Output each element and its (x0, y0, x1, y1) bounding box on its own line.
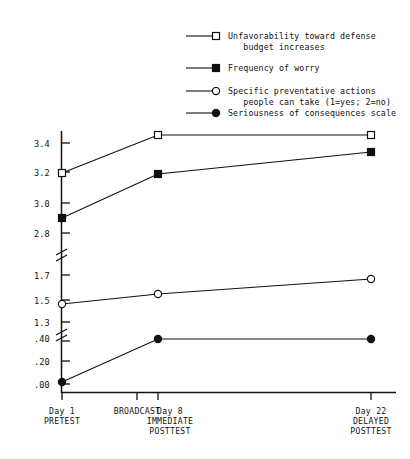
x-tick-label-line-1: BROADCAST (114, 406, 161, 416)
open-circle-marker (58, 300, 65, 307)
y-tick-label: .40 (34, 334, 50, 344)
chart-legend: Unfavorability toward defense budget inc… (186, 31, 396, 118)
open-square-marker (155, 132, 162, 139)
legend-label-line-1: Frequency of worry (228, 63, 320, 73)
legend-item-frequency-of-worry: Frequency of worry (186, 63, 320, 73)
y-tick-label: 2.8 (34, 229, 50, 239)
y-tick-label: 1.5 (34, 296, 50, 306)
y-tick-label: 3.0 (34, 199, 50, 209)
chart-axes (56, 131, 396, 393)
x-tick-label-line-3: POSTTEST (350, 426, 391, 436)
x-tick-label-line-2: PRETEST (44, 416, 80, 426)
x-tick-label-line-3: POSTTEST (149, 426, 190, 436)
open-square-marker (368, 132, 375, 139)
x-tick-day-1: Day 1 PRETEST (44, 393, 80, 427)
legend-item-seriousness: Seriousness of consequences scale (186, 108, 396, 118)
y-tick-label: 3.4 (34, 139, 50, 149)
x-tick-label-line-2: DELAYED (353, 416, 389, 426)
x-tick-label-line-1: Day 8 (157, 406, 183, 416)
filled-circle-icon (212, 109, 219, 116)
legend-label-line-2: people can take (1=yes; 2=no) (228, 97, 391, 107)
filled-square-marker (155, 171, 162, 178)
legend-label-line-1: Seriousness of consequences scale (228, 108, 396, 118)
chart-series-layer (58, 132, 374, 386)
filled-circle-marker (154, 335, 161, 342)
y-tick-label: 1.7 (34, 271, 50, 281)
x-tick-broadcast: BROADCAST (114, 393, 161, 417)
open-square-icon (213, 33, 220, 40)
chart-canvas: Unfavorability toward defense budget inc… (0, 0, 410, 459)
legend-item-preventative-actions: Specific preventative actions people can… (186, 86, 391, 107)
y-tick-0-40: .40 (34, 334, 70, 344)
y-tick-3-0: 3.0 (34, 199, 70, 209)
open-square-marker (59, 170, 66, 177)
y-tick-label: 1.3 (34, 318, 50, 328)
y-tick-2-8: 2.8 (34, 229, 70, 239)
x-tick-label-line-1: Day 22 (355, 406, 386, 416)
open-circle-marker (367, 275, 374, 282)
legend-label-line-1: Unfavorability toward defense (228, 31, 376, 41)
filled-circle-marker (58, 378, 65, 385)
x-tick-day-22: Day 22 DELAYED POSTTEST (350, 393, 391, 437)
series-filled-square (59, 149, 375, 222)
y-tick-1-3: 1.3 (34, 318, 70, 328)
y-tick-label: .20 (34, 357, 50, 367)
open-circle-icon (212, 87, 219, 94)
legend-label-line-1: Specific preventative actions (228, 86, 376, 96)
series-filled-circle (58, 335, 374, 385)
series-line (62, 152, 371, 218)
legend-item-unfavorability: Unfavorability toward defense budget inc… (186, 31, 376, 52)
series-open-circle (58, 275, 374, 307)
filled-square-marker (368, 149, 375, 156)
y-tick-label: 3.2 (34, 168, 50, 178)
series-line (62, 135, 371, 173)
y-tick-0-20: .20 (34, 357, 70, 367)
legend-label-line-2: budget increases (228, 42, 325, 52)
x-tick-label-line-1: Day 1 (49, 406, 75, 416)
chart-figure: Unfavorability toward defense budget inc… (0, 0, 410, 459)
filled-square-icon (213, 65, 220, 72)
x-tick-label-line-2: IMMEDIATE (147, 416, 194, 426)
x-axis-ticks: Day 1 PRETEST BROADCAST Day 8 IMMEDIATE … (44, 393, 392, 437)
series-line (62, 339, 371, 382)
y-tick-1-7: 1.7 (34, 271, 70, 281)
y-tick-label: .00 (34, 380, 50, 390)
filled-square-marker (59, 215, 66, 222)
series-open-square (59, 132, 375, 177)
open-circle-marker (154, 290, 161, 297)
series-line (62, 279, 371, 304)
y-tick-3-4: 3.4 (34, 139, 70, 149)
filled-circle-marker (367, 335, 374, 342)
